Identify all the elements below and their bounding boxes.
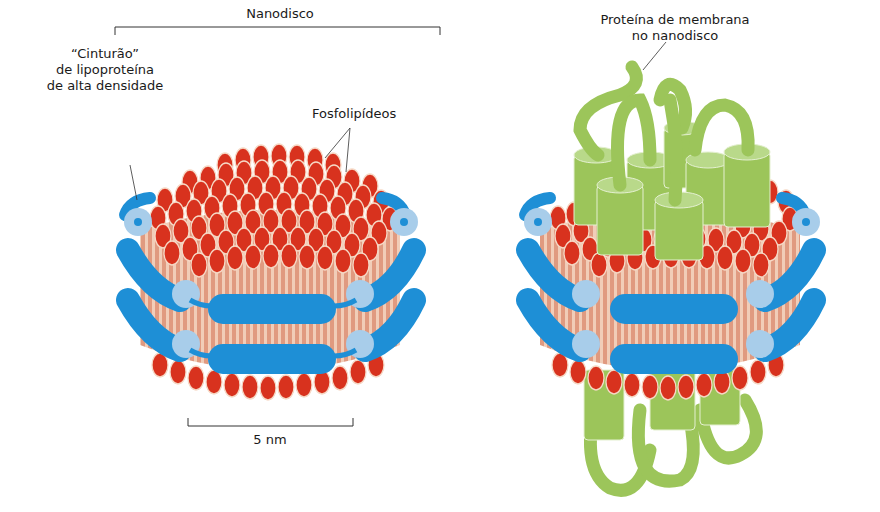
scale-bar-label: 5 nm (240, 432, 300, 448)
phospholipid-pointer-line-1 (325, 128, 350, 158)
membrane-protein-label: Proteína de membrana no nanodisco (590, 12, 760, 44)
protein-pointer-line (643, 42, 666, 70)
nanodisc-bracket (115, 27, 440, 35)
belt-label-line-3: de alta densidade (40, 78, 170, 94)
belt-label: “Cinturão” de lipoproteína de alta densi… (40, 46, 170, 94)
phospholipid-label: Fosfolipídeos (312, 106, 396, 122)
phospholipid-pointer-line-2 (346, 128, 350, 172)
scale-bar (188, 418, 353, 426)
right-nanodisc (524, 42, 820, 490)
belt-label-line-2: de lipoproteína (40, 62, 170, 78)
lipid-heads-top (150, 144, 398, 277)
belt-pointer-line (130, 165, 137, 200)
belt-label-line-1: “Cinturão” (40, 46, 170, 62)
protein-label-line-1: Proteína de membrana (590, 12, 760, 28)
protein-label-line-2: no nanodisco (590, 28, 760, 44)
nanodisc-label: Nanodisco (240, 6, 320, 22)
